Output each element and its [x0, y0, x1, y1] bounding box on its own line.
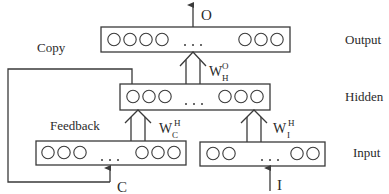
svg-text:C: C	[172, 130, 178, 140]
output-ellipsis-dot	[200, 44, 202, 46]
input-layer	[200, 142, 325, 166]
context-signal-label: C	[117, 179, 127, 194]
copy-label: Copy	[37, 40, 66, 55]
svg-text:W: W	[159, 121, 173, 136]
input-layer-label: Input	[353, 145, 381, 160]
svg-text:H: H	[288, 118, 295, 128]
context-to-hidden-connection	[125, 110, 151, 141]
context-layer-box	[36, 141, 186, 165]
hidden-layer-label: Hidden	[345, 89, 384, 104]
output-signal-label: O	[201, 7, 212, 23]
context-ellipsis-dot	[101, 159, 103, 161]
hidden-ellipsis-dot	[185, 103, 187, 105]
hidden-layer	[120, 84, 270, 110]
input-ellipsis-dot	[277, 159, 279, 161]
output-layer	[101, 27, 290, 52]
feedback-label: Feedback	[50, 118, 100, 133]
input-signal-label: I	[277, 177, 282, 193]
svg-text:W: W	[273, 121, 287, 136]
weight-hidden-output-label: W O H	[209, 61, 229, 83]
svg-text:I: I	[287, 130, 290, 140]
hidden-ellipsis-dot	[201, 103, 203, 105]
input-ellipsis-dot	[269, 159, 271, 161]
input-to-hidden-connection	[241, 110, 267, 142]
context-ellipsis-dot	[109, 159, 111, 161]
weight-input-hidden-label: W H I	[273, 118, 295, 140]
svg-text:H: H	[222, 73, 229, 83]
svg-text:H: H	[174, 118, 181, 128]
context-ellipsis-dot	[117, 159, 119, 161]
output-ellipsis-dot	[192, 44, 194, 46]
elman-network-diagram: O I C W O H W H C W H I Output Hidden In…	[0, 0, 389, 194]
context-layer	[36, 141, 186, 165]
input-ellipsis-dot	[261, 159, 263, 161]
output-layer-box	[101, 27, 290, 52]
hidden-ellipsis-dot	[193, 103, 195, 105]
output-layer-label: Output	[345, 32, 382, 47]
hidden-to-output-connection	[180, 52, 206, 84]
weight-context-hidden-label: W H C	[159, 118, 181, 140]
svg-text:O: O	[222, 61, 229, 71]
output-ellipsis-dot	[184, 44, 186, 46]
svg-text:W: W	[209, 64, 223, 79]
